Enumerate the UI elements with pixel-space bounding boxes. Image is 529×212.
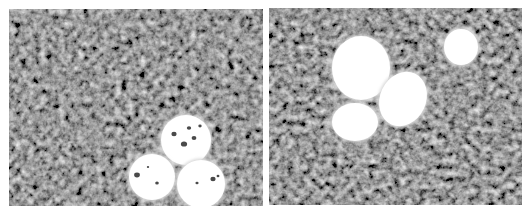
micrograph-panel-left: [9, 9, 263, 206]
particle-pit: [198, 125, 201, 128]
particle-pit: [187, 126, 191, 130]
particle-pit: [134, 173, 140, 178]
micrograph-image: [269, 8, 522, 205]
particle-pit: [171, 132, 176, 136]
particle-pit: [217, 175, 220, 177]
particle: [331, 102, 380, 143]
particle-pit: [147, 166, 149, 168]
particle-pit: [181, 141, 187, 146]
micrograph-image: [9, 9, 263, 206]
particle-pit: [195, 182, 198, 185]
particle-pit: [210, 177, 215, 181]
particle: [443, 28, 480, 67]
particle-pit: [155, 182, 159, 185]
particle-pit: [192, 136, 197, 140]
micrograph-panel-right: [269, 8, 522, 205]
particle: [128, 153, 177, 202]
